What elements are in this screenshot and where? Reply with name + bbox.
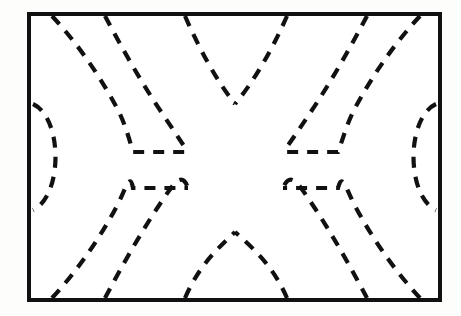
plot-frame: [29, 14, 440, 300]
contour-figure: [0, 0, 461, 316]
contour-plot-svg: [0, 0, 461, 316]
